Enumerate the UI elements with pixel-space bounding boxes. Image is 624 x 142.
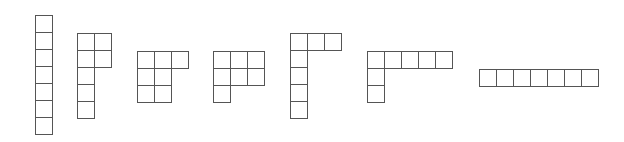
square-cell (94, 50, 112, 68)
square-cell (154, 51, 172, 69)
square-cell (247, 68, 265, 86)
square-cell (213, 68, 231, 86)
square-cell (324, 33, 342, 51)
square-cell (77, 101, 95, 119)
square-cell (35, 66, 53, 84)
square-cell (77, 67, 95, 85)
square-cell (367, 51, 385, 69)
square-cell (77, 33, 95, 51)
square-cell (384, 51, 402, 69)
square-cell (94, 33, 112, 51)
square-cell (418, 51, 436, 69)
square-cell (401, 51, 419, 69)
square-cell (35, 15, 53, 33)
square-cell (290, 50, 308, 68)
square-cell (213, 51, 231, 69)
square-cell (230, 51, 248, 69)
square-cell (213, 85, 231, 103)
square-cell (247, 51, 265, 69)
square-cell (35, 32, 53, 50)
square-cell (154, 85, 172, 103)
square-cell (564, 69, 582, 87)
square-cell (479, 69, 497, 87)
square-cell (290, 67, 308, 85)
square-cell (367, 85, 385, 103)
square-cell (435, 51, 453, 69)
square-cell (547, 69, 565, 87)
square-cell (230, 68, 248, 86)
square-cell (367, 68, 385, 86)
square-cell (171, 51, 189, 69)
square-cell (290, 84, 308, 102)
square-cell (77, 84, 95, 102)
square-cell (496, 69, 514, 87)
square-cell (35, 117, 53, 135)
square-cell (307, 33, 325, 51)
square-cell (77, 50, 95, 68)
square-cell (290, 33, 308, 51)
square-cell (137, 51, 155, 69)
square-cell (35, 100, 53, 118)
square-cell (290, 101, 308, 119)
square-cell (35, 49, 53, 67)
square-cell (513, 69, 531, 87)
square-cell (530, 69, 548, 87)
square-cell (137, 85, 155, 103)
square-cell (581, 69, 599, 87)
square-cell (35, 83, 53, 101)
square-cell (137, 68, 155, 86)
square-cell (154, 68, 172, 86)
